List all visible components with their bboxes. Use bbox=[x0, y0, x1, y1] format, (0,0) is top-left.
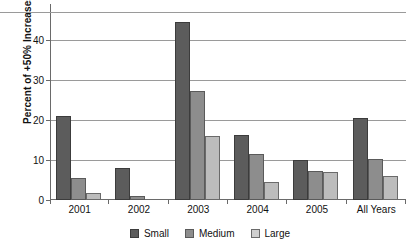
x-tick-label: 2004 bbox=[228, 204, 287, 215]
bar-group-bars bbox=[228, 8, 287, 200]
bar-group-bars bbox=[347, 8, 406, 200]
bar-group-bars bbox=[109, 8, 168, 200]
bar-groups: 20012002200320042005All Years bbox=[50, 8, 406, 200]
bar-small-all-years bbox=[353, 118, 368, 200]
legend-item-large[interactable]: Large bbox=[251, 228, 291, 239]
chart-legend: SmallMediumLarge bbox=[0, 228, 420, 239]
x-tick-label: 2002 bbox=[109, 204, 168, 215]
bar-large-all-years bbox=[383, 176, 398, 200]
bar-small-2005 bbox=[293, 160, 308, 200]
bar-small-2001 bbox=[56, 116, 71, 200]
legend-swatch-large-icon bbox=[251, 229, 260, 238]
y-tick-label: 0 bbox=[4, 195, 44, 206]
bar-small-2002 bbox=[115, 168, 130, 200]
bar-group: 2001 bbox=[50, 8, 109, 200]
bar-small-2003 bbox=[175, 22, 190, 200]
y-tick-label: 20 bbox=[4, 115, 44, 126]
bar-medium-2005 bbox=[308, 171, 323, 200]
bar-group-bars bbox=[50, 8, 109, 200]
bar-chart: Percent of +50% Increases 010203040 2001… bbox=[0, 0, 420, 251]
legend-swatch-small-icon bbox=[130, 229, 139, 238]
bar-small-2004 bbox=[234, 135, 249, 200]
bar-group-bars bbox=[169, 8, 228, 200]
y-tick-label: 30 bbox=[4, 75, 44, 86]
bar-large-2004 bbox=[264, 182, 279, 200]
y-tick-label: 10 bbox=[4, 155, 44, 166]
bar-group: 2003 bbox=[169, 8, 228, 200]
bar-group: 2002 bbox=[109, 8, 168, 200]
bar-medium-2002 bbox=[130, 196, 145, 200]
bar-medium-all-years bbox=[368, 159, 383, 200]
bar-group: 2005 bbox=[287, 8, 346, 200]
legend-label: Large bbox=[265, 228, 291, 239]
legend-label: Small bbox=[144, 228, 169, 239]
legend-swatch-medium-icon bbox=[185, 229, 194, 238]
bar-large-2003 bbox=[205, 136, 220, 200]
bar-large-2005 bbox=[323, 172, 338, 200]
x-tick-label: 2001 bbox=[50, 204, 109, 215]
bar-medium-2004 bbox=[249, 154, 264, 200]
legend-item-small[interactable]: Small bbox=[130, 228, 169, 239]
bar-medium-2003 bbox=[190, 91, 205, 200]
y-tick-label: 40 bbox=[4, 35, 44, 46]
x-tick-label: All Years bbox=[347, 204, 406, 215]
legend-item-medium[interactable]: Medium bbox=[185, 228, 235, 239]
x-tick-label: 2003 bbox=[169, 204, 228, 215]
bar-group: 2004 bbox=[228, 8, 287, 200]
bar-group: All Years bbox=[347, 8, 406, 200]
legend-label: Medium bbox=[199, 228, 235, 239]
bar-group-bars bbox=[287, 8, 346, 200]
plot-area: 010203040 20012002200320042005All Years bbox=[50, 8, 406, 200]
bar-large-2001 bbox=[86, 193, 101, 200]
x-tick-label: 2005 bbox=[287, 204, 346, 215]
bar-medium-2001 bbox=[71, 178, 86, 200]
